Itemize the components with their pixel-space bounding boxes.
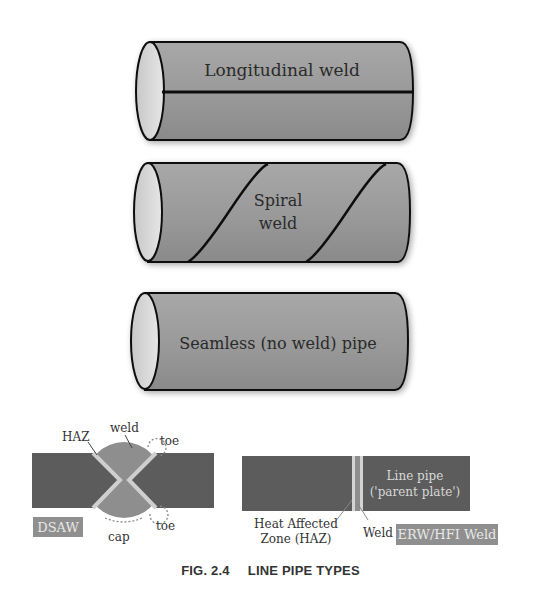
erw-badge-text: ERW/HFI Weld (398, 527, 497, 542)
figure-caption: FIG. 2.4LINE PIPE TYPES (0, 563, 541, 578)
dsaw-haz-label: HAZ (62, 430, 89, 444)
erw-line-pipe-label-line1: Line pipe (387, 469, 444, 483)
dsaw-toe-top-label: toe (160, 434, 179, 448)
erw-line-pipe-label-line2: ('parent plate') (370, 485, 461, 499)
longitudinal-weld-label: Longitudinal weld (204, 60, 360, 80)
erw-haz-right (360, 456, 363, 511)
spiral-weld-pipe (134, 163, 410, 262)
dsaw-cap-label: cap (108, 530, 130, 544)
dsaw-weld-label: weld (110, 421, 139, 435)
erw-weld-line (355, 456, 360, 511)
figure-title: LINE PIPE TYPES (248, 563, 360, 578)
spiral-weld-label-line2: weld (259, 214, 298, 233)
dsaw-toe-bottom-label: toe (156, 519, 175, 533)
erw-weld-label: Weld (363, 526, 393, 540)
erw-haz-label-line1: Heat Affected (254, 517, 338, 531)
erw-haz-left (352, 456, 355, 511)
cap-marker (105, 518, 142, 522)
seamless-pipe-label: Seamless (no weld) pipe (179, 334, 376, 353)
longitudinal-weld-pipe (136, 42, 413, 140)
figure-number: FIG. 2.4 (181, 563, 230, 578)
erw-right-plate (363, 456, 470, 511)
erw-left-plate (242, 456, 352, 511)
dsaw-badge-text: DSAW (37, 520, 79, 535)
line-pipe-types-diagram: Longitudinal weld Spiral weld Seamless (… (0, 0, 541, 591)
dsaw-cross-section (32, 435, 214, 524)
spiral-weld-label-line1: Spiral (254, 191, 303, 210)
erw-haz-label-line2: Zone (HAZ) (260, 532, 331, 546)
